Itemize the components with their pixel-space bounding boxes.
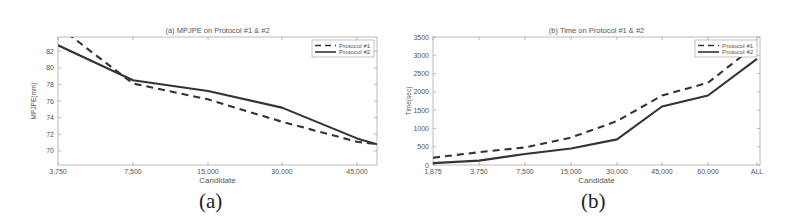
caption-b: (b) (581, 189, 606, 214)
x-tick-label: 30,000 (271, 168, 293, 175)
x-tick-label: ALL (751, 168, 764, 175)
x-axis-label: Candidate (199, 176, 236, 185)
y-tick-label: 2000 (413, 88, 429, 95)
chart-a: (a) MPJPE on Protocol #1 & #270727476788… (0, 0, 395, 190)
y-axis-label: Time(sec) (405, 87, 413, 116)
y-tick-label: 3500 (413, 34, 429, 41)
y-tick-label: 1000 (413, 125, 429, 132)
y-axis-label: MPJPE(mm) (30, 83, 38, 120)
y-tick-label: 1500 (413, 107, 429, 114)
x-tick-label: 30,000 (606, 168, 628, 175)
x-tick-label: 3,750 (49, 168, 67, 175)
x-axis-label: Candidate (578, 176, 615, 185)
x-tick-label: 15,000 (560, 168, 582, 175)
y-tick-label: 74 (46, 114, 54, 121)
y-tick-label: 76 (46, 98, 54, 105)
legend-label: Protocol #2 (339, 48, 371, 55)
legend: Protocol #1Protocol #2 (312, 40, 374, 57)
x-tick-label: 7,500 (124, 168, 142, 175)
caption-a: (a) (199, 189, 222, 214)
y-tick-label: 500 (417, 143, 429, 150)
x-tick-label: 1,875 (424, 168, 442, 175)
y-tick-label: 82 (46, 48, 54, 55)
x-tick-label: 3,750 (470, 168, 488, 175)
y-tick-label: 70 (46, 147, 54, 154)
series-line-protocol-2 (433, 59, 757, 163)
y-tick-label: 3000 (413, 52, 429, 59)
x-tick-label: 15,000 (197, 168, 219, 175)
y-tick-label: 80 (46, 64, 54, 71)
y-tick-label: 78 (46, 81, 54, 88)
chart-title: (a) MPJPE on Protocol #1 & #2 (165, 26, 269, 35)
x-tick-label: 45,000 (651, 168, 673, 175)
x-tick-label: 45,000 (346, 168, 368, 175)
legend: Protocol #1Protocol #2 (695, 40, 757, 57)
series-line-protocol-1 (433, 44, 757, 157)
chart-b-panel: (b) Time on Protocol #1 & #2050010001500… (395, 0, 790, 190)
chart-a-panel: (a) MPJPE on Protocol #1 & #270727476788… (0, 0, 395, 190)
chart-b: (b) Time on Protocol #1 & #2050010001500… (395, 0, 790, 190)
series-line-protocol-2 (58, 45, 377, 144)
y-tick-label: 2500 (413, 70, 429, 77)
x-tick-label: 60,000 (697, 168, 719, 175)
x-tick-label: 7,500 (516, 168, 534, 175)
chart-title: (b) Time on Protocol #1 & #2 (549, 26, 644, 35)
legend-label: Protocol #2 (722, 48, 754, 55)
y-tick-label: 72 (46, 131, 54, 138)
